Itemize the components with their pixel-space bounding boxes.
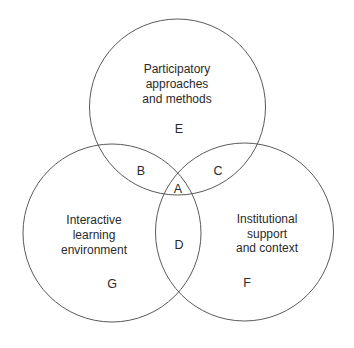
label-interactive: Interactive learning environment — [61, 213, 128, 257]
circle-institutional — [156, 143, 334, 321]
region-letter-e: E — [175, 122, 183, 136]
label-line: approaches — [146, 77, 209, 91]
label-line: learning — [73, 228, 116, 242]
label-line: Participatory — [144, 62, 211, 76]
label-line: environment — [61, 243, 128, 257]
venn-diagram: Participatory approaches and methods E I… — [0, 0, 354, 348]
circle-participatory — [90, 19, 266, 195]
label-line: and methods — [142, 92, 211, 106]
region-letter-b: B — [137, 164, 145, 178]
region-letter-g: G — [107, 277, 117, 291]
label-participatory: Participatory approaches and methods — [142, 62, 211, 106]
label-line: support — [247, 227, 288, 241]
label-line: Interactive — [66, 213, 122, 227]
region-letter-f: F — [243, 276, 251, 290]
label-line: Institutional — [237, 212, 298, 226]
region-letter-c: C — [213, 164, 222, 178]
region-letter-a: A — [174, 182, 183, 196]
label-institutional: Institutional support and context — [236, 212, 299, 255]
region-letter-d: D — [174, 238, 183, 252]
label-line: and context — [236, 241, 299, 255]
